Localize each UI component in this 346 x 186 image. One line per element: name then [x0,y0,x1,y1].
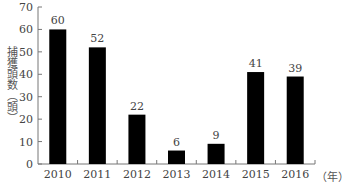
y-tick-label: 0 [26,158,33,171]
x-axis-unit-label: （年） [316,168,346,184]
y-tick-label: 60 [19,23,33,36]
x-tick-label: 2014 [202,168,230,181]
bar-value-label: 22 [130,100,144,113]
x-tick-label: 2012 [123,168,151,181]
bar-value-label: 52 [90,32,104,45]
bar-value-label: 41 [249,57,263,70]
x-tick-label: 2011 [83,168,111,181]
bar-2014 [208,144,225,164]
y-tick-label: 30 [19,91,33,104]
bar-2016 [287,77,304,164]
x-tick-label: 2013 [163,168,191,181]
y-axis-label: 捕獲頭数（頭） [4,46,18,123]
bar-value-label: 6 [173,136,180,149]
bar-value-label: 60 [51,14,65,27]
bar-2013 [168,151,185,164]
x-tick-label: 2016 [281,168,309,181]
bar-2015 [247,72,264,164]
y-tick-label: 20 [19,113,33,126]
x-tick-label: 2015 [242,168,270,181]
y-tick-label: 10 [19,136,33,149]
bar-2011 [89,47,106,164]
bar-2012 [128,115,145,164]
y-tick-label: 50 [19,46,33,59]
y-tick-label: 40 [19,68,33,81]
y-tick-label: 70 [19,1,33,14]
bar-value-label: 39 [288,62,302,75]
bar-value-label: 9 [213,129,220,142]
bars: 605222694139 [49,14,303,164]
x-tick-label: 2010 [44,168,72,181]
bar-2010 [49,29,66,164]
